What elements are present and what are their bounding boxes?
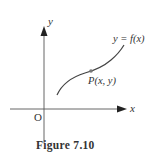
y-axis-label: y [48,15,53,27]
y-axis-arrow-icon [41,26,48,36]
origin-label: O [34,111,42,123]
x-axis-arrow-icon [117,106,127,113]
curve-label: y = f(x) [113,33,145,44]
x-axis-label: x [130,102,135,114]
figure-caption: Figure 7.10 [36,139,95,151]
point-p-marker [89,69,93,73]
figure-diagram: y x O y = f(x) P(x, y) Figure 7.10 [0,0,156,163]
point-p-label: P(x, y) [88,75,116,86]
